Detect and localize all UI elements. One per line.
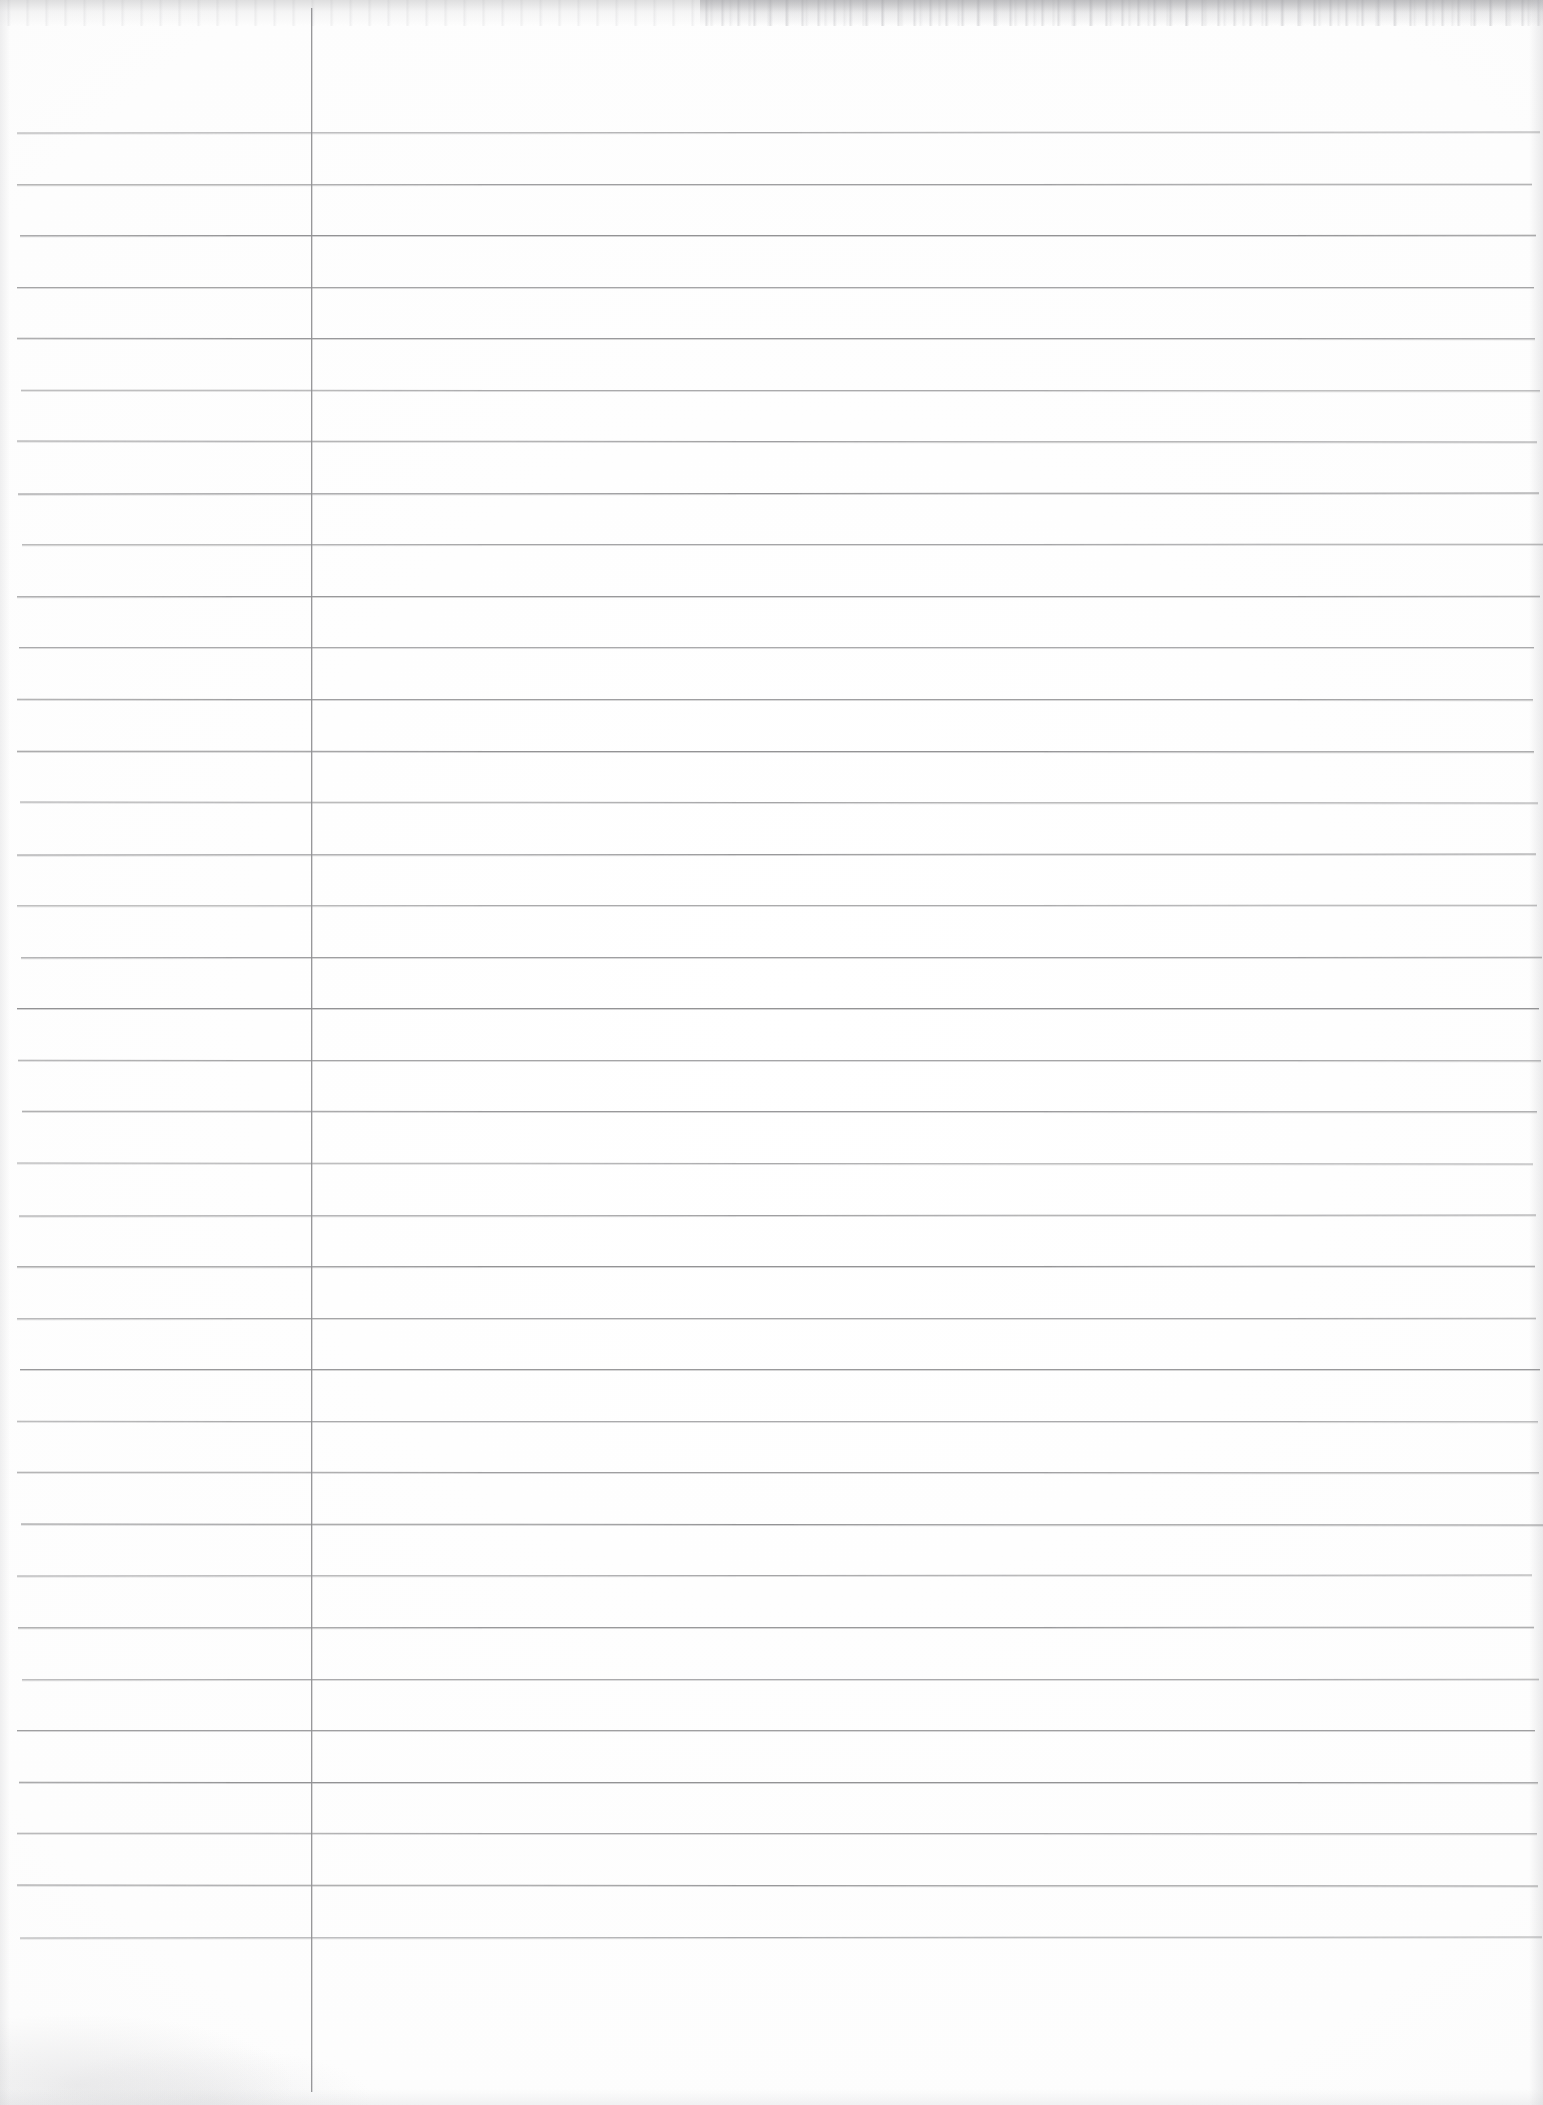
body-writing-region[interactable] — [312, 132, 1541, 1937]
header-writing-region[interactable] — [0, 0, 1543, 132]
notebook-page — [0, 0, 1543, 2105]
left-margin-region[interactable] — [0, 132, 311, 1937]
footer-writing-region[interactable] — [0, 1937, 1543, 2105]
